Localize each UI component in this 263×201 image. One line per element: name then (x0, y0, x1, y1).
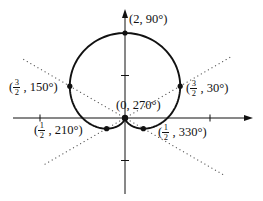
point-label-3-2-150: (32 , 150°) (9, 78, 58, 98)
label-angle-text: , 30°) (197, 81, 228, 95)
y-axis-arrow (122, 9, 128, 18)
x-axis-arrow (244, 115, 253, 121)
point-dot-150deg (67, 84, 72, 89)
point-dot-330deg (141, 126, 146, 131)
point-label-2-90: (2, 90°) (129, 13, 167, 27)
point-dot-270deg (122, 115, 128, 121)
point-label-0-270: (0, 270°) (116, 99, 161, 113)
polar-plot-figure: (2, 90°) (32 , 150°) (32 , 30°) (0, 270°… (0, 0, 263, 201)
point-label-3-2-30: (32 , 30°) (186, 79, 228, 99)
point-dot-90deg (122, 30, 127, 35)
point-dot-30deg (178, 84, 183, 89)
point-label-1-2-330: (12 , 330°) (158, 123, 207, 143)
label-angle-text: , 210°) (45, 123, 82, 137)
label-angle-text: , 330°) (169, 125, 206, 139)
point-dot-210deg (104, 126, 109, 131)
label-angle-text: , 150°) (20, 80, 57, 94)
point-label-1-2-210: (12 , 210°) (34, 121, 83, 141)
